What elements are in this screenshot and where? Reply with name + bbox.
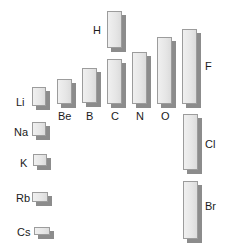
element-label-br: Br <box>205 200 216 212</box>
element-label-b: B <box>86 110 93 122</box>
atom-bar-cs <box>34 227 50 235</box>
atom-bar-na <box>32 122 46 136</box>
element-label-h: H <box>93 24 101 36</box>
element-label-rb: Rb <box>16 192 30 204</box>
atom-bar-li <box>32 87 46 106</box>
atom-bar-cl <box>183 114 198 170</box>
element-label-o: O <box>161 110 170 122</box>
atom-bar-b <box>82 68 97 103</box>
atom-bar-c <box>107 59 122 104</box>
atom-bar-br <box>183 181 198 239</box>
atom-bar-n <box>132 52 147 104</box>
element-label-c: C <box>111 110 119 122</box>
element-label-cl: Cl <box>205 138 215 150</box>
atom-bar-rb <box>32 192 48 202</box>
element-label-na: Na <box>14 126 28 138</box>
element-label-k: K <box>20 157 27 169</box>
atom-bar-k <box>33 154 47 166</box>
element-label-f: F <box>205 60 212 72</box>
atom-bar-f <box>182 29 197 104</box>
atom-bar-h <box>107 11 122 48</box>
element-label-n: N <box>136 110 144 122</box>
atom-bar-o <box>157 37 172 104</box>
element-label-cs: Cs <box>17 226 30 238</box>
atom-bar-be <box>57 79 72 104</box>
element-label-be: Be <box>58 110 71 122</box>
element-label-li: Li <box>16 96 25 108</box>
